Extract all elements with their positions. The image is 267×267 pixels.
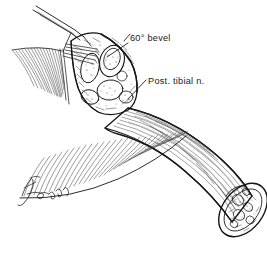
nerve-label: Post. tibial n.	[148, 76, 204, 86]
surgical-illustration-figure: 60° bevel Post. tibial n.	[0, 0, 267, 267]
bevel-label: 60° bevel	[130, 33, 171, 43]
illustration-canvas: 60° bevel Post. tibial n.	[0, 0, 267, 267]
